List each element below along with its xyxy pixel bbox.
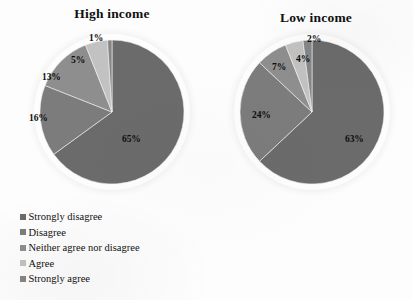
slice-percentage-label: 4% [296, 54, 310, 64]
legend-item-label: Disagree [29, 227, 66, 238]
slice-percentage-label: 2% [307, 34, 321, 44]
slice-percentage-label: 24% [252, 110, 271, 120]
slice-percentage-label: 16% [29, 113, 48, 123]
chart-title-low-income: Low income [240, 10, 392, 26]
slice-percentage-label: 13% [42, 72, 61, 82]
legend-item: Agree [20, 256, 140, 272]
slice-percentage-label: 5% [71, 55, 85, 65]
legend-swatch-icon [20, 214, 26, 220]
slice-percentage-label: 63% [345, 134, 364, 144]
legend-item: Strongly agree [20, 271, 140, 287]
figure-container: High income Low income 65%16%13%5%1%63%2… [0, 0, 413, 300]
legend-swatch-icon [20, 276, 26, 282]
legend-item: Strongly disagree [20, 209, 140, 225]
pie-chart-high-income [39, 39, 185, 185]
legend-item-label: Neither agree nor disagree [29, 242, 140, 253]
chart-legend: Strongly disagreeDisagreeNeither agree n… [20, 209, 140, 287]
legend-item-label: Strongly disagree [29, 211, 103, 222]
slice-percentage-label: 7% [272, 62, 286, 72]
slice-percentage-label: 65% [122, 134, 141, 144]
legend-swatch-icon [20, 260, 26, 266]
legend-item-label: Strongly agree [29, 273, 91, 284]
legend-item: Neither agree nor disagree [20, 240, 140, 256]
legend-item-label: Agree [29, 258, 55, 269]
legend-swatch-icon [20, 229, 26, 235]
pie-svg-high-income [39, 39, 185, 185]
legend-item: Disagree [20, 225, 140, 241]
legend-swatch-icon [20, 245, 26, 251]
chart-title-high-income: High income [36, 6, 188, 22]
slice-percentage-label: 1% [89, 33, 103, 43]
